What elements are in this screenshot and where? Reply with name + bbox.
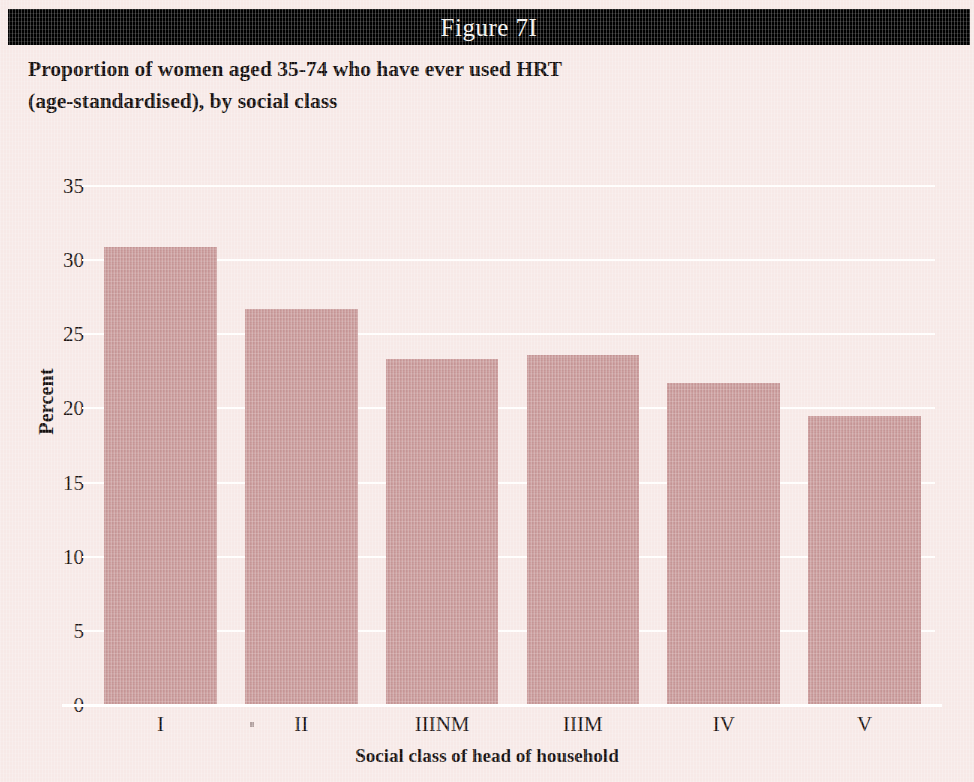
- bar: [386, 359, 499, 705]
- y-tick-label: 15: [30, 470, 84, 495]
- bar-chart-plot: Percent 05101520253035 IIIIIINMIIIMIVV S…: [0, 0, 974, 782]
- bar: [245, 309, 358, 705]
- gridline: [90, 407, 935, 409]
- x-tick-label: IIIM: [503, 712, 663, 737]
- y-tick-label: 25: [30, 322, 84, 347]
- x-tick-label: II: [221, 712, 381, 737]
- x-tick-label: I: [80, 712, 240, 737]
- scan-speck: [250, 722, 254, 727]
- bar: [104, 247, 217, 705]
- x-axis-baseline: [62, 704, 942, 707]
- gridline: [90, 259, 935, 261]
- y-tick-label: 30: [30, 248, 84, 273]
- y-tick-label: 35: [30, 174, 84, 199]
- y-tick-label: 5: [30, 618, 84, 643]
- gridline: [90, 185, 935, 187]
- y-axis-tick-labels: 05101520253035: [22, 0, 84, 782]
- x-tick-label: IIINM: [362, 712, 522, 737]
- gridline: [90, 333, 935, 335]
- bar: [527, 355, 640, 705]
- bar: [667, 383, 780, 705]
- y-tick-label: 10: [30, 544, 84, 569]
- bar: [808, 416, 921, 705]
- x-axis-title: Social class of head of household: [0, 745, 974, 767]
- x-tick-label: IV: [644, 712, 804, 737]
- x-tick-label: V: [785, 712, 945, 737]
- y-tick-label: 20: [30, 396, 84, 421]
- figure-page: Figure 7I Proportion of women aged 35-74…: [0, 0, 974, 782]
